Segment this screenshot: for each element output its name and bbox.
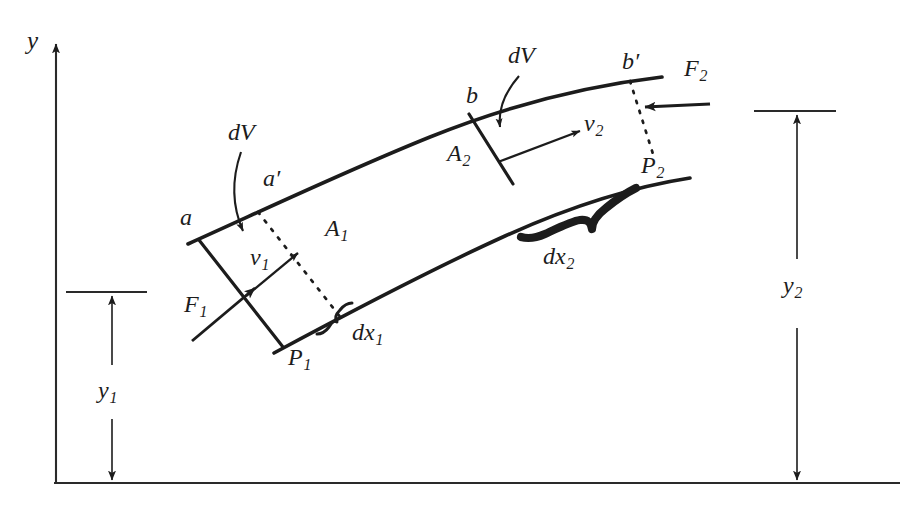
tube-lower-wall bbox=[274, 178, 690, 353]
velocity-v2-group bbox=[498, 131, 580, 162]
pressure-point-p1-subscript: 1 bbox=[304, 356, 312, 373]
velocity-v1-label: v1 bbox=[250, 245, 270, 273]
pressure-point-p2-label: P2 bbox=[641, 153, 665, 181]
cross-section-b-prime-group bbox=[630, 81, 653, 154]
figure-canvas: y y1 y2 dV dV a a′ b b′ A1 A2 v1 v2 F1 F… bbox=[0, 0, 920, 511]
flow-tube-group bbox=[188, 77, 690, 353]
dx2-subscript: 2 bbox=[567, 255, 575, 272]
height-y2-subscript: 2 bbox=[795, 284, 803, 301]
velocity-v2-subscript: 2 bbox=[596, 122, 604, 139]
area-a1-label: A1 bbox=[325, 216, 349, 244]
area-a1-base: A bbox=[325, 215, 340, 241]
velocity-v2-arrow bbox=[498, 131, 580, 162]
dx1-subscript: 1 bbox=[376, 331, 384, 348]
force-f2-group bbox=[645, 104, 710, 107]
force-f2-subscript: 2 bbox=[700, 67, 708, 84]
brace-dx2-group bbox=[521, 188, 636, 238]
force-f1-label: F1 bbox=[184, 292, 208, 320]
force-f2-label: F2 bbox=[684, 56, 708, 84]
dv-right-label: dV bbox=[508, 43, 535, 67]
cross-section-b-prime-dashed-line bbox=[630, 81, 653, 154]
height-y1-label: y1 bbox=[98, 378, 118, 406]
force-f1-subscript: 1 bbox=[200, 303, 208, 320]
force-f2-base: F bbox=[684, 55, 699, 81]
dv-right-pointer-group bbox=[500, 76, 519, 127]
brace-dx1 bbox=[317, 303, 352, 334]
point-a-label: a bbox=[180, 205, 192, 229]
cross-section-b-line bbox=[469, 114, 513, 184]
pressure-point-p2-subscript: 2 bbox=[657, 164, 665, 181]
area-a2-subscript: 2 bbox=[463, 152, 471, 169]
velocity-v1-subscript: 1 bbox=[262, 256, 270, 273]
y-axis-label: y bbox=[27, 28, 38, 53]
cross-section-a-group bbox=[199, 240, 283, 347]
cross-section-b-group bbox=[469, 114, 513, 184]
pressure-point-p1-label: P1 bbox=[288, 345, 312, 373]
area-a2-base: A bbox=[447, 140, 462, 166]
height-y1-subscript: 1 bbox=[110, 389, 118, 406]
force-f1-base: F bbox=[184, 291, 199, 317]
pressure-point-p2-base: P bbox=[641, 152, 656, 178]
pressure-point-p1-base: P bbox=[288, 344, 303, 370]
axis-group bbox=[54, 44, 900, 483]
area-a2-label: A2 bbox=[447, 141, 471, 169]
dx1-base: dx bbox=[352, 319, 375, 345]
velocity-v1-base: v bbox=[250, 244, 261, 270]
dx2-base: dx bbox=[543, 243, 566, 269]
velocity-v2-label: v2 bbox=[584, 111, 604, 139]
force-f2-arrow bbox=[645, 104, 710, 107]
brace-dx1-group bbox=[317, 303, 352, 334]
brace-dx2 bbox=[521, 188, 636, 238]
cross-section-a-line bbox=[199, 240, 283, 347]
dv-left-label: dV bbox=[228, 120, 255, 144]
area-a1-subscript: 1 bbox=[341, 227, 349, 244]
point-a-prime-label: a′ bbox=[263, 166, 280, 190]
height-y2-base: y bbox=[783, 272, 794, 298]
point-b-prime-label: b′ bbox=[622, 49, 639, 73]
point-b-label: b bbox=[466, 83, 478, 107]
height-y2-label: y2 bbox=[783, 273, 803, 301]
velocity-v2-base: v bbox=[584, 110, 595, 136]
diagram-svg bbox=[0, 0, 920, 511]
dx1-label: dx1 bbox=[352, 320, 384, 348]
dx2-label: dx2 bbox=[543, 244, 575, 272]
height-y1-base: y bbox=[98, 377, 109, 403]
dv-right-curved-arrow bbox=[500, 76, 519, 127]
